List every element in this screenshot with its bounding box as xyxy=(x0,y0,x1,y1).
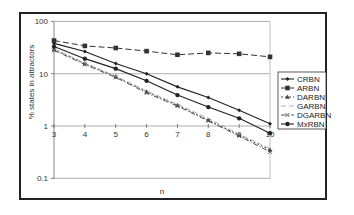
diamond-marker xyxy=(175,85,179,89)
circle-marker xyxy=(114,66,118,70)
legend-label: DARBN xyxy=(297,93,325,102)
diamond-marker xyxy=(237,108,241,112)
x-axis-title: n xyxy=(160,187,164,196)
legend: CRBNARBNDARBNGARBNDGARBNMxRBN xyxy=(278,72,331,129)
circle-marker xyxy=(285,122,289,126)
circle-marker xyxy=(144,79,148,83)
circle-marker xyxy=(52,44,56,48)
series-mxrbn xyxy=(52,44,272,135)
diamond-marker xyxy=(206,96,210,100)
x-tick-label: 8 xyxy=(206,130,211,139)
x-tick-label: 4 xyxy=(83,130,88,139)
y-tick-label: 1 xyxy=(44,122,49,131)
diamond-marker xyxy=(114,62,118,66)
legend-label: ARBN xyxy=(297,84,319,93)
circle-marker xyxy=(83,56,87,60)
square-marker xyxy=(144,49,149,54)
square-marker xyxy=(52,38,57,43)
y-tick-label: 100 xyxy=(35,17,49,26)
circle-marker xyxy=(206,105,210,109)
axes: 0.1110100345678910n% states in attractor… xyxy=(27,17,275,196)
square-marker xyxy=(285,86,290,91)
line-chart: 0.1110100345678910n% states in attractor… xyxy=(0,0,354,215)
y-axis-title: % states in attractors xyxy=(27,45,36,120)
circle-marker xyxy=(175,93,179,97)
x-tick-label: 7 xyxy=(175,130,180,139)
square-marker xyxy=(268,55,273,60)
legend-label: CRBN xyxy=(297,75,320,84)
x-tick-label: 5 xyxy=(113,130,118,139)
square-marker xyxy=(83,44,88,49)
square-marker xyxy=(113,46,118,51)
y-tick-label: 10 xyxy=(39,70,48,79)
circle-marker xyxy=(237,116,241,120)
circle-marker xyxy=(268,131,272,135)
legend-label: MxRBN xyxy=(297,120,325,129)
square-marker xyxy=(206,51,211,56)
x-tick-label: 6 xyxy=(144,130,149,139)
diamond-marker xyxy=(268,122,272,126)
diamond-marker xyxy=(83,50,87,54)
y-tick-label: 0.1 xyxy=(37,174,49,183)
square-marker xyxy=(237,52,242,57)
legend-label: DGARBN xyxy=(297,111,331,120)
series-arbn xyxy=(52,38,273,59)
square-marker xyxy=(175,52,180,57)
diamond-marker xyxy=(145,72,149,76)
x-tick-label: 3 xyxy=(52,130,57,139)
legend-label: GARBN xyxy=(297,102,326,111)
